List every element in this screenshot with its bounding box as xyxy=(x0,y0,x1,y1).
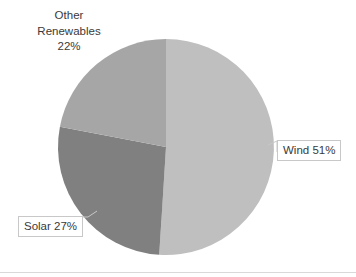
data-label-other-renewables-line2: Renewables xyxy=(14,24,124,40)
data-label-wind: Wind 51% xyxy=(277,140,341,161)
pie-chart-figure: Other Renewables 22% Wind 51% Solar 27% xyxy=(0,0,356,277)
data-label-other-renewables-line1: Other xyxy=(14,8,124,24)
data-label-other-renewables: Other Renewables 22% xyxy=(14,8,124,55)
data-label-solar: Solar 27% xyxy=(18,216,83,237)
data-label-other-renewables-line3: 22% xyxy=(14,39,124,55)
pie-slice-wind[interactable] xyxy=(159,39,274,255)
bottom-divider xyxy=(0,272,356,273)
